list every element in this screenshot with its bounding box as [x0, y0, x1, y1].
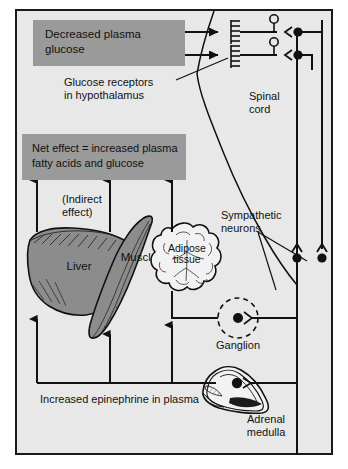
- liver-label: Liver: [67, 260, 92, 272]
- adipose-tissue-label-line2: tissue: [173, 253, 201, 265]
- epinephrine-label: Increased epinephrine in plasma: [40, 393, 200, 405]
- indirect-effect-label-line1: (Indirect: [62, 193, 102, 205]
- figure-container: Liver Muscle: [0, 0, 348, 469]
- sympathetic-neurons-label-line1: Sympathetic: [221, 209, 282, 221]
- adrenal-medulla-label-line2: medulla: [247, 426, 286, 438]
- spinal-cord-label-line1: Spinal: [249, 90, 280, 102]
- stimulus-box-line1: Decreased plasma: [45, 28, 141, 40]
- glucose-receptors-label-line1: Glucose receptors: [64, 76, 154, 88]
- adipose-tissue-organ: Adipose tissue: [151, 223, 221, 290]
- physiology-flow-diagram: Liver Muscle: [0, 0, 348, 469]
- glucose-receptors-label-line2: in hypothalamus: [64, 89, 145, 101]
- sympathetic-neurons-label-line2: neurons: [221, 222, 261, 234]
- stimulus-box: Decreased plasma glucose: [33, 20, 185, 66]
- indirect-effect-label-line2: effect): [62, 206, 92, 218]
- stimulus-box-line2: glucose: [45, 43, 85, 55]
- ganglion-label: Ganglion: [216, 339, 260, 351]
- net-effect-box: Net effect = increased plasma fatty acid…: [22, 134, 186, 180]
- net-effect-box-line1: Net effect = increased plasma: [32, 142, 179, 154]
- net-effect-box-line2: fatty acids and glucose: [32, 157, 144, 169]
- adrenal-medulla-node: [232, 378, 242, 388]
- spinal-cord-label-line2: cord: [249, 103, 270, 115]
- adrenal-medulla-label-line1: Adrenal: [247, 413, 285, 425]
